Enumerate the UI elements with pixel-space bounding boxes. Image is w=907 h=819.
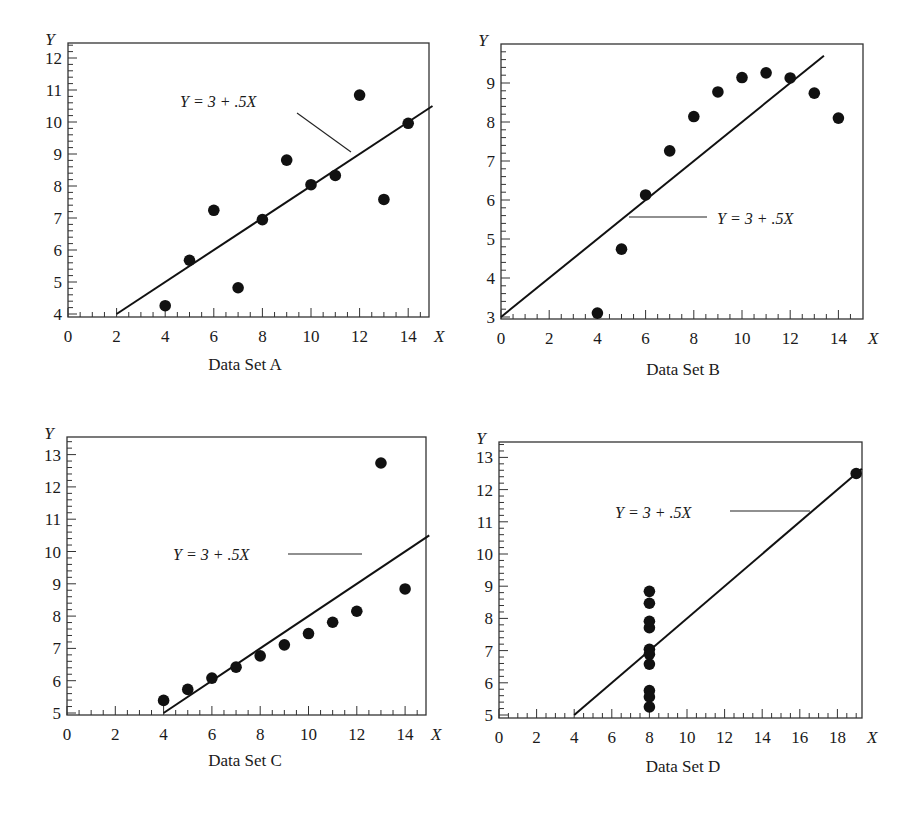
x-tick-label: 2	[112, 327, 121, 346]
data-point	[254, 650, 266, 662]
equation-leader-line	[297, 113, 351, 152]
data-point	[850, 468, 862, 480]
panel-caption: Data Set B	[646, 360, 720, 379]
y-tick-label: 4	[54, 305, 63, 324]
data-point	[644, 691, 656, 703]
data-point	[206, 672, 218, 684]
x-tick-label: 14	[754, 728, 772, 747]
data-point	[784, 72, 796, 84]
x-axis-label: X	[866, 728, 878, 747]
plot-frame	[501, 44, 863, 319]
equation-label: Y = 3 + .5X	[717, 210, 794, 227]
x-tick-label: 6	[208, 725, 217, 744]
y-axis-label: Y	[45, 30, 56, 49]
y-tick-label: 9	[54, 145, 63, 164]
x-tick-label: 2	[111, 725, 120, 744]
y-axis-ticks	[501, 52, 510, 317]
x-tick-label: 8	[258, 327, 267, 346]
x-tick-label: 8	[645, 728, 654, 747]
data-points	[158, 457, 411, 706]
data-point	[351, 605, 363, 617]
panel-caption: Data Set A	[208, 355, 282, 374]
y-axis-label: Y	[478, 31, 489, 50]
y-tick-label: 5	[54, 273, 63, 292]
data-point	[327, 616, 339, 628]
y-tick-label: 7	[485, 642, 494, 661]
panel-caption: Data Set D	[646, 757, 721, 776]
y-tick-label: 12	[476, 481, 493, 500]
x-tick-label: 2	[532, 728, 541, 747]
y-tick-label: 10	[44, 543, 61, 562]
data-point	[159, 300, 171, 312]
data-point	[279, 639, 291, 651]
x-tick-label: 16	[791, 728, 808, 747]
x-tick-label: 12	[351, 327, 368, 346]
regression-line	[501, 56, 824, 317]
x-tick-label: 10	[300, 725, 317, 744]
y-tick-label: 10	[45, 113, 62, 132]
data-point	[760, 67, 772, 79]
x-tick-label: 6	[641, 329, 650, 348]
data-point	[232, 282, 244, 294]
plot-frame	[499, 442, 862, 718]
regression-line	[117, 106, 433, 314]
x-axis-label: X	[433, 327, 445, 346]
data-point	[399, 583, 411, 595]
anscombe-quartet-figure: 02468101214456789101112XYData Set AY = 3…	[0, 0, 907, 819]
x-tick-label: 14	[397, 725, 415, 744]
y-tick-label: 9	[487, 74, 496, 93]
equation-label: Y = 3 + .5X	[180, 93, 257, 110]
data-point	[616, 243, 628, 255]
y-tick-label: 8	[54, 177, 63, 196]
panel-caption: Data Set C	[208, 751, 282, 770]
x-tick-label: 14	[830, 329, 848, 348]
y-tick-label: 8	[485, 609, 494, 628]
x-tick-label: 2	[545, 329, 554, 348]
x-tick-label: 4	[593, 329, 602, 348]
data-point	[257, 214, 269, 226]
data-point	[303, 628, 315, 640]
y-tick-label: 5	[487, 230, 496, 249]
y-tick-label: 11	[477, 513, 493, 532]
y-tick-label: 4	[487, 269, 496, 288]
x-tick-label: 4	[570, 728, 579, 747]
y-tick-label: 7	[54, 209, 63, 228]
data-point	[644, 701, 656, 713]
x-tick-label: 6	[210, 327, 219, 346]
y-axis-ticks	[68, 45, 77, 314]
x-tick-label: 18	[829, 728, 846, 747]
data-point	[305, 179, 317, 191]
data-points	[592, 67, 845, 319]
data-point	[378, 194, 390, 206]
y-axis-label: Y	[476, 429, 487, 448]
x-axis-ticks	[68, 308, 420, 317]
x-tick-label: 12	[348, 725, 365, 744]
x-tick-label: 8	[690, 329, 699, 348]
data-point	[664, 145, 676, 157]
data-point	[644, 658, 656, 670]
x-tick-label: 0	[495, 728, 504, 747]
x-tick-label: 0	[497, 329, 506, 348]
y-tick-label: 5	[485, 706, 494, 725]
y-tick-label: 6	[53, 672, 62, 691]
y-tick-label: 11	[46, 81, 62, 100]
data-point	[402, 117, 414, 129]
plot-frame	[67, 437, 426, 715]
y-tick-label: 6	[485, 674, 494, 693]
x-axis-label: X	[867, 329, 879, 348]
y-tick-label: 12	[45, 49, 62, 68]
x-tick-label: 12	[782, 329, 799, 348]
data-point	[833, 112, 845, 124]
figure-canvas: 02468101214456789101112XYData Set AY = 3…	[0, 0, 907, 819]
y-tick-label: 9	[485, 577, 494, 596]
x-tick-label: 14	[400, 327, 418, 346]
data-point	[375, 457, 387, 469]
y-tick-label: 6	[487, 191, 496, 210]
data-point	[736, 72, 748, 84]
data-point	[644, 615, 656, 627]
x-tick-label: 10	[303, 327, 320, 346]
panel-data-set-c: 024681012145678910111213XYData Set CY = …	[44, 424, 442, 770]
data-point	[208, 205, 220, 217]
y-tick-label: 3	[487, 308, 496, 327]
y-axis-ticks	[67, 442, 76, 713]
